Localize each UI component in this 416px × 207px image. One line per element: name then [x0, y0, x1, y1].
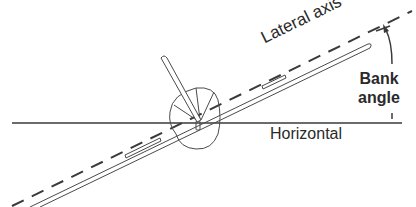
bank-angle-label-line2: angle: [352, 88, 406, 107]
horizontal-label: Horizontal: [270, 125, 342, 143]
aircraft-strut: [161, 56, 201, 122]
bank-angle-label-line1: Bank: [352, 69, 406, 88]
lateral-axis-line: [12, 11, 412, 206]
bank-angle-label: Bank angle: [352, 69, 406, 107]
